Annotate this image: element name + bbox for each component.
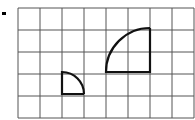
- small-quarter-circle: [62, 72, 84, 94]
- grid-diagram: [0, 0, 195, 120]
- marker-dash: [2, 12, 6, 15]
